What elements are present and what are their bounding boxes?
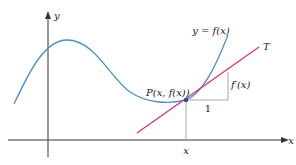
curve-label: y = f(x) bbox=[191, 25, 230, 36]
point-p bbox=[184, 98, 188, 102]
run-label: 1 bbox=[205, 103, 211, 114]
x-axis-label: x bbox=[288, 135, 294, 146]
rise-label: f′(x) bbox=[230, 79, 251, 90]
point-label: P(x, f(x)) bbox=[145, 87, 190, 98]
y-axis-label: y bbox=[53, 10, 60, 21]
curve-y-equals-fx bbox=[14, 35, 228, 104]
drop-line-label: x bbox=[183, 145, 189, 156]
x-axis bbox=[8, 137, 289, 143]
tangent-label: T bbox=[263, 41, 271, 52]
tangent-diagram: y x y = f(x) T P(x, f(x)) f′(x) 1 x bbox=[0, 0, 296, 165]
y-axis bbox=[45, 11, 51, 157]
y-axis-arrow-icon bbox=[45, 11, 51, 19]
